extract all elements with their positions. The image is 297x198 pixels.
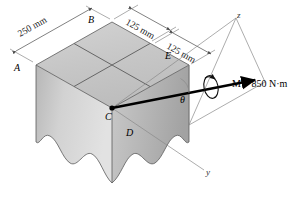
point-label-d: D xyxy=(125,127,134,138)
point-label-e: E xyxy=(164,50,171,61)
reference-line-4 xyxy=(236,18,265,82)
extension-line-e xyxy=(155,29,179,43)
theta-label: θ xyxy=(180,94,185,105)
z-axis-label: z xyxy=(236,10,241,20)
point-label-a: A xyxy=(13,62,21,73)
point-label-c: C xyxy=(105,111,112,122)
extension-line-a xyxy=(10,49,33,62)
extension-line-d xyxy=(152,27,176,41)
point-label-b: B xyxy=(88,14,94,25)
moment-block-diagram: 250 mm 125 mm 125 mm z y M = 850 N·m xyxy=(0,0,297,198)
reference-line-2 xyxy=(189,18,236,125)
point-c-dot xyxy=(109,105,114,110)
y-axis-label: y xyxy=(205,167,210,177)
moment-label: M = 850 N·m xyxy=(232,78,288,89)
extension-line-c xyxy=(114,5,138,19)
